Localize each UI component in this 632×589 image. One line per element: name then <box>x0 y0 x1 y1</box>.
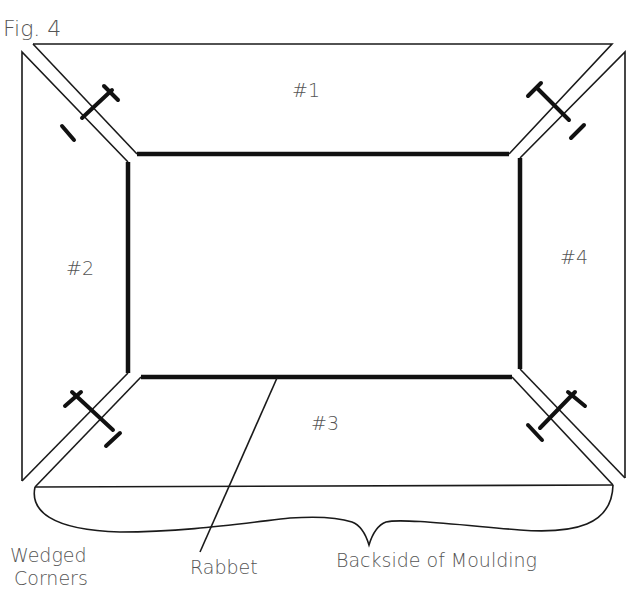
callout-rabbet: Rabbet <box>190 556 258 578</box>
wedge-bottom-left <box>65 392 120 446</box>
callout-backside: Backside of Moulding <box>336 549 537 571</box>
backside-brace <box>34 485 613 545</box>
piece-label-2: #2 <box>66 257 94 279</box>
wedge-top-left <box>62 86 118 140</box>
figure-title: Fig. 4 <box>3 16 61 41</box>
piece-label-4: #4 <box>560 246 588 268</box>
wedge-bottom-right <box>528 392 585 440</box>
moulding-piece-top <box>33 44 612 154</box>
piece-label-3: #3 <box>311 412 339 434</box>
rabbet-pointer <box>200 378 277 552</box>
callout-corners: Corners <box>14 567 88 589</box>
wedge-top-right <box>528 83 584 138</box>
callout-wedged: Wedged <box>10 544 87 566</box>
frame-diagram: Fig. 4 #1 #2 #3 #4 Wedged Corners Rabbet… <box>0 0 632 589</box>
piece-label-1: #1 <box>292 79 320 101</box>
